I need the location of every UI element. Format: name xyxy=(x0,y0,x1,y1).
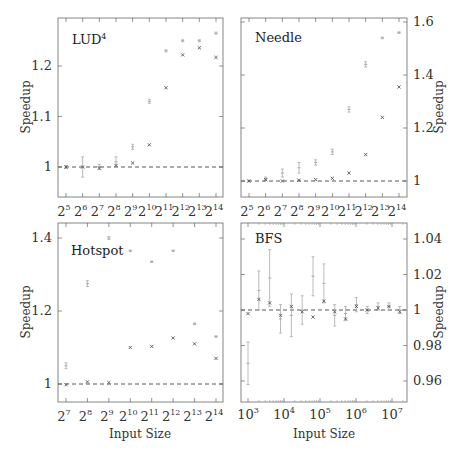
y-tick-label: 1.2 xyxy=(413,120,434,135)
data-point-marker xyxy=(86,380,89,383)
data-point-marker xyxy=(214,357,217,360)
data-point-marker xyxy=(364,153,367,156)
bfs-title: BFS xyxy=(255,231,282,246)
bfs-panel: 1031041051061070.960.9811.021.04 BFS Spe… xyxy=(237,223,446,441)
bfs-frame xyxy=(241,223,407,402)
x-tick-label: 104 xyxy=(273,406,295,422)
x-tick-label: 27 xyxy=(91,203,104,219)
data-point-marker xyxy=(181,53,184,56)
x-tick-label: 105 xyxy=(309,406,331,422)
bfs-xlabel: Input Size xyxy=(293,427,355,441)
x-tick-label: 28 xyxy=(290,203,303,219)
needle-panel: 252627282921021121221321411.21.41.6 Need… xyxy=(240,14,446,219)
data-point-marker xyxy=(347,171,350,174)
x-tick-label: 28 xyxy=(107,203,120,219)
x-tick-label: 103 xyxy=(237,406,259,422)
x-tick-label: 27 xyxy=(57,408,70,424)
data-point-marker xyxy=(148,143,151,146)
x-tick-label: 106 xyxy=(345,406,367,422)
lud-ylabel: Speedup xyxy=(19,80,33,134)
lud-data-points xyxy=(58,32,223,177)
y-tick-label: 0.98 xyxy=(413,338,442,353)
y-tick-label: 1.04 xyxy=(413,231,442,246)
y-tick-label: 0.96 xyxy=(413,373,442,388)
y-tick-label: 1.4 xyxy=(31,230,52,245)
speedup-figure: 252627282921021121221321411.11.2 LUD4 Sp… xyxy=(0,0,471,453)
x-tick-label: 211 xyxy=(140,408,158,424)
bfs-axes: 1031041051061070.960.9811.021.04 xyxy=(237,223,442,422)
data-point-marker xyxy=(381,116,384,119)
hotspot-xlabel: Input Size xyxy=(109,427,171,441)
x-tick-label: 29 xyxy=(124,203,137,219)
y-tick-label: 1.4 xyxy=(413,67,434,82)
y-tick-label: 1.2 xyxy=(31,303,52,318)
x-tick-label: 107 xyxy=(381,406,403,422)
y-tick-label: 1 xyxy=(413,173,421,188)
bfs-data-points xyxy=(241,250,407,385)
data-point-marker xyxy=(314,178,317,181)
x-tick-label: 28 xyxy=(79,408,92,424)
y-tick-label: 1 xyxy=(413,302,421,317)
x-tick-label: 26 xyxy=(74,203,87,219)
data-point-marker xyxy=(131,161,134,164)
bfs-ylabel: Speedup xyxy=(432,285,446,339)
data-point-marker xyxy=(150,345,153,348)
data-point-marker xyxy=(214,56,217,59)
data-point-marker xyxy=(129,346,132,349)
x-tick-label: 29 xyxy=(100,408,113,424)
needle-title: Needle xyxy=(255,30,302,45)
data-point-marker xyxy=(198,46,201,49)
x-tick-label: 25 xyxy=(240,203,253,219)
x-tick-label: 214 xyxy=(388,203,406,219)
data-point-marker xyxy=(311,316,314,319)
y-tick-label: 1.2 xyxy=(31,58,52,73)
x-tick-label: 210 xyxy=(119,408,137,424)
hotspot-title: Hotspot xyxy=(71,243,124,258)
x-tick-label: 212 xyxy=(162,408,180,424)
lud-panel: 252627282921021121221321411.11.2 LUD4 Sp… xyxy=(19,18,223,219)
data-point-marker xyxy=(193,342,196,345)
y-tick-label: 1.02 xyxy=(413,267,442,282)
data-point-marker xyxy=(397,85,400,88)
y-tick-label: 1 xyxy=(44,159,52,174)
hotspot-ylabel: Speedup xyxy=(19,285,33,339)
lud-axes: 252627282921021121221321411.11.2 xyxy=(31,18,223,219)
x-tick-label: 25 xyxy=(57,203,70,219)
y-tick-label: 1 xyxy=(44,376,52,391)
x-tick-label: 26 xyxy=(257,203,270,219)
y-tick-label: 1.1 xyxy=(31,109,52,124)
data-point-marker xyxy=(164,86,167,89)
data-point-marker xyxy=(172,336,175,339)
lud-title: LUD4 xyxy=(72,32,106,47)
x-tick-label: 214 xyxy=(205,203,223,219)
hotspot-panel: 27282921021121221321411.21.4 Hotspot Spe… xyxy=(19,223,223,441)
y-tick-label: 1.6 xyxy=(413,14,434,29)
needle-data-points xyxy=(241,32,407,183)
needle-ylabel: Speedup xyxy=(432,80,446,134)
x-tick-label: 214 xyxy=(205,408,223,424)
data-point-marker xyxy=(331,177,334,180)
hotspot-data-points xyxy=(58,237,223,387)
x-tick-label: 213 xyxy=(183,408,201,424)
x-tick-label: 27 xyxy=(274,203,287,219)
x-tick-label: 29 xyxy=(307,203,320,219)
data-point-marker xyxy=(246,312,249,315)
